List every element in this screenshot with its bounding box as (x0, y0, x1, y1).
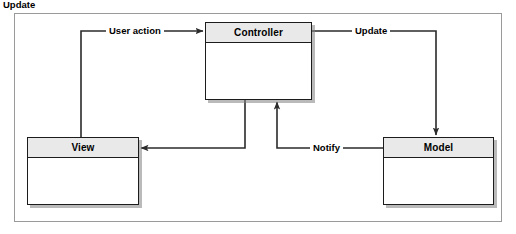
node-controller-body (206, 43, 311, 99)
node-model[interactable]: Model (383, 137, 494, 205)
edge-label-notify: Notify (310, 143, 343, 153)
node-view-body (28, 158, 138, 204)
edge-label-update-top: Update (352, 26, 390, 36)
edge-label-user-action: User action (106, 26, 164, 36)
edge-label-update-bottom: Update (0, 0, 38, 10)
mvc-diagram: Controller View Model User action Update… (0, 0, 516, 234)
node-view[interactable]: View (27, 137, 139, 205)
node-controller-header: Controller (206, 23, 311, 43)
node-model-header: Model (384, 138, 493, 158)
node-view-title: View (71, 143, 94, 153)
node-view-header: View (28, 138, 138, 158)
node-model-title: Model (424, 143, 453, 153)
node-controller-title: Controller (234, 28, 283, 38)
node-model-body (384, 158, 493, 204)
node-controller[interactable]: Controller (205, 22, 312, 100)
